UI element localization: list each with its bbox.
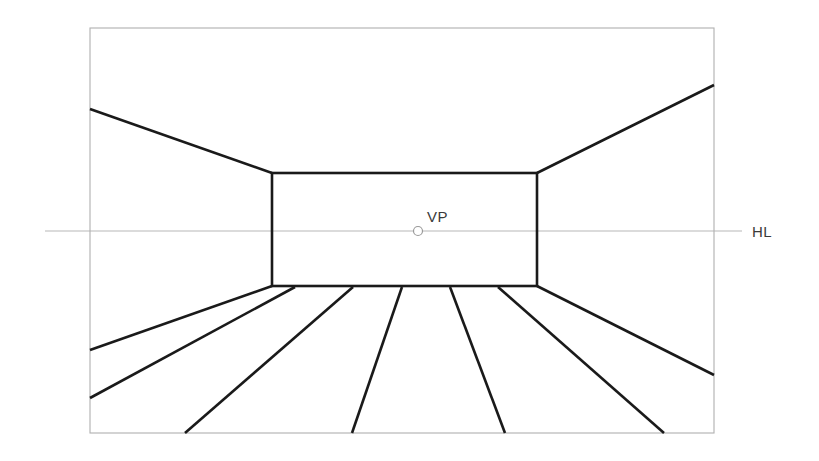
floor-center (352, 287, 402, 433)
ceiling-line-group (90, 85, 714, 173)
floor-left-outer (90, 286, 272, 350)
perspective-diagram-canvas: VP HL (0, 0, 819, 461)
ceiling-left (90, 109, 272, 173)
vanishing-point-marker (414, 227, 423, 236)
floor-right-outer (537, 286, 714, 375)
horizon-line-label: HL (752, 223, 772, 240)
floor-line-group (90, 286, 714, 433)
perspective-diagram-root: VP HL (0, 0, 819, 461)
floor-left-mid (90, 287, 295, 398)
floor-right-inner (450, 287, 505, 433)
back-wall-rectangle (272, 173, 537, 286)
vanishing-point-label: VP (427, 208, 448, 225)
ceiling-right (537, 85, 714, 173)
